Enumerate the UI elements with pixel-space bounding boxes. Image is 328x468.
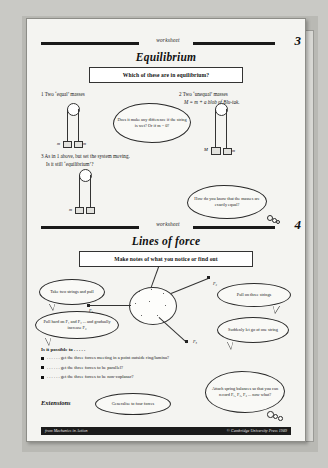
mass-left-1 xyxy=(63,141,72,148)
bullet-1: . . . . . . get the three forces meeting… xyxy=(41,355,209,362)
header-rule-left-2 xyxy=(41,226,139,229)
worksheet-3-label: worksheet xyxy=(145,37,191,43)
force-3-grip xyxy=(185,340,188,343)
worksheet-4-label: worksheet xyxy=(145,221,191,227)
bubble-tail-3 xyxy=(273,305,280,313)
bubble-three-strings-text: Pull on three strings xyxy=(237,292,272,298)
bubble-tail-2 xyxy=(45,337,51,345)
mass-M-label: M xyxy=(204,147,208,152)
header-rule-left xyxy=(41,42,139,45)
worksheet-4-task-box: Make notes of what you notice or find ou… xyxy=(79,251,253,267)
bubble-masses-equal-question: How do you know that the masses are exac… xyxy=(187,185,267,219)
item-1: 1 Two ‘equal’ masses xyxy=(41,91,85,99)
worksheet-4-header: worksheet 4 xyxy=(41,221,291,233)
worksheet-4-title: Lines of force xyxy=(27,235,305,247)
force-line-4 xyxy=(151,267,159,288)
worksheet-3-section: worksheet 3 Equilibrium Which of these a… xyxy=(27,37,305,83)
header-rule-right xyxy=(193,42,275,45)
bubble-spring-balances: Attach spring balances so that you can r… xyxy=(205,371,285,413)
force-2-label: F₂ xyxy=(213,281,217,286)
string-right-2 xyxy=(226,109,227,149)
mass-M xyxy=(211,147,221,155)
bubble-tail-dot-6 xyxy=(278,416,283,421)
mass-m-label: m xyxy=(232,148,235,153)
worksheet-3-title: Equilibrium xyxy=(27,51,305,63)
mass-right-3 xyxy=(86,207,95,214)
string-right-3 xyxy=(90,175,91,209)
bullet-3-text: . . . . . . get the three forces to be n… xyxy=(47,374,133,381)
header-rule-right-2 xyxy=(193,226,275,229)
force-line-3 xyxy=(159,317,188,343)
bubble-generalise: Generalise to four forces xyxy=(95,393,171,415)
worksheet-3-header: worksheet 3 xyxy=(41,37,291,49)
mass-right-1 xyxy=(74,141,83,148)
bubble-string-wet-question: Does it make any difference if the strin… xyxy=(113,103,191,143)
item-2: 2 Two ‘unequal’ masses M = m + a blob of… xyxy=(179,91,240,106)
string-right-1 xyxy=(78,109,79,143)
mass-left-label-1: m xyxy=(57,141,60,146)
bubble-take-two-strings-text: Take two strings and pull xyxy=(50,289,93,295)
bullet-1-text: . . . . . . get the three forces meeting… xyxy=(47,355,169,362)
bubble-let-go-text: Suddenly let go of one string xyxy=(228,327,278,333)
bubble-spring-balances-text: Attach spring balances so that you can r… xyxy=(208,386,282,398)
item-1-text: Two ‘equal’ masses xyxy=(45,91,85,97)
bubble-pull-hard-text: Pull hard on F₁ and F₂ ... and gradually… xyxy=(38,319,116,331)
bubble-generalise-text: Generalise to four forces xyxy=(112,401,155,407)
bubble-tail-1 xyxy=(49,303,55,310)
bullet-square-icon xyxy=(41,376,44,379)
item-2-text2: M = m + a blob of Blu-tak. xyxy=(179,99,240,107)
bullet-2: . . . . . . get the three forces to be p… xyxy=(41,365,209,372)
item-2-text: Two ‘unequal’ masses xyxy=(183,91,228,97)
item-3-text2: Is it still ‘equilibrium’? xyxy=(41,161,130,169)
worksheet-4-section: worksheet 4 Lines of force Make notes of… xyxy=(27,221,305,267)
footer-left-text: from Mechanics in Action xyxy=(45,429,88,433)
is-it-possible-block: Is it possible to . . . . . . . . . . . … xyxy=(41,347,209,381)
bullet-3: . . . . . . get the three forces to be n… xyxy=(41,374,209,381)
mass-left-label-3: m xyxy=(69,207,72,212)
item-3-text: As in 1 above, but set the system moving… xyxy=(45,153,130,159)
bullet-2-text: . . . . . . get the three forces to be p… xyxy=(47,365,123,372)
footer-right-text: © Cambridge University Press 1989 xyxy=(227,429,287,433)
item-3: 3 As in 1 above, but set the system movi… xyxy=(41,153,130,168)
force-line-1 xyxy=(89,305,131,306)
worksheet-4-number: 4 xyxy=(295,217,302,233)
bullet-square-icon xyxy=(41,357,44,360)
string-left-3 xyxy=(79,175,80,209)
force-3-label: F₃ xyxy=(193,339,197,344)
bubble-three-strings: Pull on three strings xyxy=(217,283,291,307)
bubble-tail-4 xyxy=(227,341,233,349)
mass-m xyxy=(223,148,232,155)
bullet-square-icon xyxy=(41,366,44,369)
force-2-grip xyxy=(207,276,210,279)
worksheet-3-number: 3 xyxy=(295,33,302,49)
worksheet-3-task-box: Which of these are in equilibrium? xyxy=(89,67,243,83)
force-1-grip xyxy=(87,304,90,307)
worksheet-page: worksheet 3 Equilibrium Which of these a… xyxy=(26,18,306,442)
string-left-1 xyxy=(67,109,68,143)
page-footer: from Mechanics in Action © Cambridge Uni… xyxy=(41,427,291,435)
string-left-2 xyxy=(215,109,216,149)
force-line-2 xyxy=(171,278,208,294)
mass-left-3 xyxy=(75,207,84,214)
item-3-number: 3 xyxy=(41,153,44,159)
item-2-number: 2 xyxy=(179,91,182,97)
bubble-pull-hard: Pull hard on F₁ and F₂ ... and gradually… xyxy=(35,311,119,339)
item-1-number: 1 xyxy=(41,91,44,97)
bubble-masses-equal-text: How do you know that the masses are exac… xyxy=(190,196,264,208)
is-it-possible-prompt: Is it possible to . . . . . xyxy=(41,347,209,352)
bubble-string-wet-text: Does it make any difference if the strin… xyxy=(116,117,188,129)
bubble-let-go: Suddenly let go of one string xyxy=(217,317,289,343)
extensions-label: Extensions xyxy=(41,399,71,406)
bubble-take-two-strings: Take two strings and pull xyxy=(39,279,105,305)
mass-right-label-1: m xyxy=(83,141,86,146)
